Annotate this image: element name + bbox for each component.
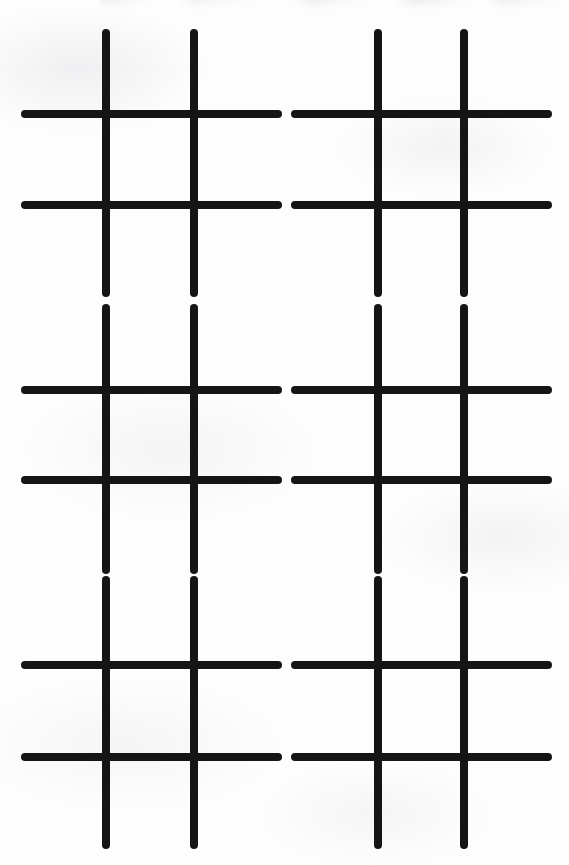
grid-cell[interactable] (25, 114, 106, 205)
grid-cell[interactable] (106, 480, 194, 570)
grid-cell[interactable] (25, 757, 106, 845)
grid-cell[interactable] (194, 480, 278, 570)
grid-cell[interactable] (194, 33, 278, 114)
tic-tac-toe-grid[interactable] (25, 33, 278, 293)
grid-cell[interactable] (295, 205, 378, 293)
grid-cell[interactable] (25, 580, 106, 665)
grid-cell[interactable] (194, 580, 278, 665)
grid-cell[interactable] (194, 665, 278, 757)
grid-cell[interactable] (464, 205, 548, 293)
grid-cell[interactable] (194, 390, 278, 480)
grid-cell[interactable] (295, 580, 378, 665)
grid-cell[interactable] (295, 308, 378, 390)
tic-tac-toe-grid[interactable] (25, 580, 278, 845)
grid-cell[interactable] (464, 33, 548, 114)
grid-cell[interactable] (378, 757, 464, 845)
grid-cell[interactable] (464, 757, 548, 845)
grid-cell[interactable] (464, 480, 548, 570)
grid-cell[interactable] (194, 757, 278, 845)
grid-cell[interactable] (25, 308, 106, 390)
grid-cell[interactable] (194, 308, 278, 390)
grid-cell[interactable] (106, 33, 194, 114)
grid-cell[interactable] (378, 580, 464, 665)
grid-cell[interactable] (106, 390, 194, 480)
grid-layer (25, 33, 548, 845)
grid-cell[interactable] (464, 580, 548, 665)
grid-cell[interactable] (378, 390, 464, 480)
grid-cell[interactable] (25, 665, 106, 757)
grid-cell[interactable] (295, 665, 378, 757)
grid-cell[interactable] (378, 205, 464, 293)
grid-cell[interactable] (378, 308, 464, 390)
tic-tac-toe-grid-sheet (0, 0, 569, 865)
grid-cell[interactable] (295, 390, 378, 480)
grid-cell[interactable] (106, 665, 194, 757)
grid-cell[interactable] (464, 665, 548, 757)
grid-cell[interactable] (295, 114, 378, 205)
grid-cell[interactable] (295, 757, 378, 845)
grid-cell[interactable] (106, 580, 194, 665)
grid-cell[interactable] (25, 33, 106, 114)
tic-tac-toe-grid[interactable] (295, 580, 548, 845)
grid-cell[interactable] (106, 114, 194, 205)
grid-lines-canvas (0, 0, 569, 865)
grid-cell[interactable] (295, 480, 378, 570)
tic-tac-toe-grid[interactable] (25, 308, 278, 570)
grid-cell[interactable] (464, 114, 548, 205)
grid-cell[interactable] (378, 480, 464, 570)
grid-cell[interactable] (295, 33, 378, 114)
grid-cell[interactable] (464, 308, 548, 390)
grid-cell[interactable] (25, 390, 106, 480)
grid-cell[interactable] (106, 308, 194, 390)
grid-cell[interactable] (106, 205, 194, 293)
grid-cell[interactable] (25, 205, 106, 293)
grid-cell[interactable] (464, 390, 548, 480)
grid-cell[interactable] (378, 665, 464, 757)
tic-tac-toe-grid[interactable] (295, 33, 548, 293)
grid-cell[interactable] (378, 33, 464, 114)
worksheet-page (0, 0, 569, 865)
grid-cell[interactable] (194, 114, 278, 205)
grid-cell[interactable] (25, 480, 106, 570)
tic-tac-toe-grid[interactable] (295, 308, 548, 570)
grid-cell[interactable] (106, 757, 194, 845)
grid-cell[interactable] (194, 205, 278, 293)
grid-cell[interactable] (378, 114, 464, 205)
